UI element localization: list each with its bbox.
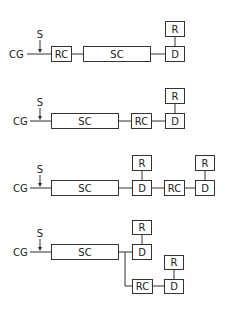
svg-text:D: D xyxy=(138,183,146,194)
rc-block: RC xyxy=(52,47,72,62)
svg-text:R: R xyxy=(202,158,209,169)
r-block-1: R xyxy=(133,156,152,171)
svg-text:SC: SC xyxy=(78,247,91,258)
d-block-2: D xyxy=(196,181,215,196)
cg-label: CG xyxy=(13,183,28,194)
svg-text:D: D xyxy=(171,116,179,127)
r-block-1: R xyxy=(133,221,152,235)
svg-text:RC: RC xyxy=(55,49,68,60)
d-block: D xyxy=(166,47,185,62)
cg-label: CG xyxy=(9,49,24,60)
block-diagram: CG S RC SC D R CG S SC xyxy=(0,0,225,310)
cg-label: CG xyxy=(13,116,28,127)
diagram-4: CG S SC D R RC D R xyxy=(13,221,184,294)
rc-block: RC xyxy=(133,280,153,294)
svg-text:R: R xyxy=(139,222,146,233)
arrow-head-icon xyxy=(38,247,42,251)
arrow-head-icon xyxy=(38,116,42,120)
s-label: S xyxy=(37,29,43,40)
sc-block: SC xyxy=(52,114,119,129)
svg-text:D: D xyxy=(138,247,146,258)
d-block-1: D xyxy=(133,245,152,260)
svg-text:D: D xyxy=(171,49,179,60)
svg-text:D: D xyxy=(201,183,209,194)
svg-text:R: R xyxy=(139,158,146,169)
r-block: R xyxy=(166,22,185,37)
rc-block: RC xyxy=(165,181,185,196)
svg-text:R: R xyxy=(172,91,179,102)
arrow-head-icon xyxy=(38,49,42,53)
sc-block: SC xyxy=(52,181,119,196)
svg-text:RC: RC xyxy=(136,281,149,292)
s-label: S xyxy=(37,228,43,239)
s-label: S xyxy=(37,97,43,108)
sc-block: SC xyxy=(84,47,151,62)
r-block-2: R xyxy=(196,156,215,171)
sc-block: SC xyxy=(52,245,119,260)
svg-text:SC: SC xyxy=(78,116,91,127)
d-block-2: D xyxy=(165,280,184,294)
diagram-1: CG S RC SC D R xyxy=(9,22,185,62)
diagram-2: CG S SC RC D R xyxy=(13,89,185,129)
svg-text:SC: SC xyxy=(78,183,91,194)
svg-text:R: R xyxy=(171,257,178,268)
svg-text:RC: RC xyxy=(168,183,181,194)
s-label: S xyxy=(37,164,43,175)
diagram-3: CG S SC D R RC D R xyxy=(13,156,215,196)
svg-text:SC: SC xyxy=(110,49,123,60)
svg-text:R: R xyxy=(172,24,179,35)
rc-block: RC xyxy=(132,114,152,129)
r-block-2: R xyxy=(165,256,184,270)
svg-text:RC: RC xyxy=(135,116,148,127)
d-block-1: D xyxy=(133,181,152,196)
r-block: R xyxy=(166,89,185,104)
cg-label: CG xyxy=(13,247,28,258)
arrow-head-icon xyxy=(38,183,42,187)
d-block: D xyxy=(166,114,185,129)
svg-text:D: D xyxy=(170,281,178,292)
